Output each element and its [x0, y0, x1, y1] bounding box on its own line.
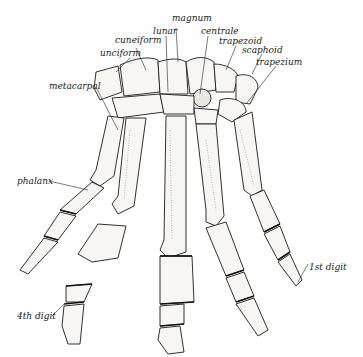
label-centrale: centrale [201, 26, 239, 36]
digit-2 [206, 222, 268, 336]
digit-4 [62, 224, 126, 344]
label-unciform: unciform [100, 48, 141, 58]
label-cuneiform: cuneiform [115, 35, 161, 45]
digit-1 [250, 190, 302, 286]
scaphoid-bone [236, 75, 258, 104]
lunar-bone [158, 59, 188, 94]
bone-illustration [0, 0, 363, 357]
centrale-bone [193, 89, 211, 107]
carpal-bones [94, 58, 258, 125]
label-1st-digit: 1st digit [309, 262, 347, 272]
label-metacarpal: metacarpal [49, 81, 101, 91]
digit-3 [158, 256, 194, 354]
label-trapezium: trapezium [256, 57, 302, 67]
label-magnum: magnum [172, 13, 212, 23]
hand-skeleton-figure: magnum lunar centrale cuneiform trapezoi… [0, 0, 363, 357]
cuneiform-bone [120, 58, 160, 96]
label-4th-digit: 4th digit [17, 311, 56, 321]
label-scaphoid: scaphoid [242, 45, 283, 55]
label-phalanx: phalanx [17, 176, 53, 186]
trapezoid-bone [214, 64, 238, 92]
stippling [124, 130, 254, 240]
